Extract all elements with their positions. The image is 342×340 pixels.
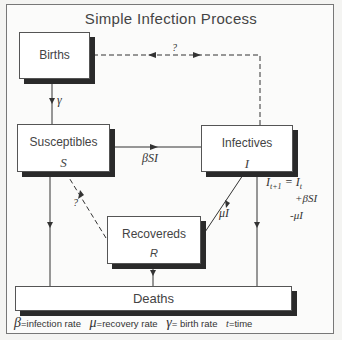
edge-label-birth-rate: γ <box>57 93 62 108</box>
node-recovereds: Recovereds R <box>107 216 201 264</box>
arrowhead <box>193 52 201 58</box>
legend-item-mu: μ=recovery rate <box>90 318 158 329</box>
node-label: Infectives <box>202 136 292 150</box>
edge-infectives-to-births-dashed <box>94 55 260 125</box>
arrowhead <box>148 52 156 58</box>
node-susceptibles: Susceptibles S <box>17 124 110 172</box>
node-label: Deaths <box>16 291 291 306</box>
legend: β=infection rate μ=recovery rate γ= birt… <box>14 315 258 331</box>
legend-text: = birth rate <box>172 318 218 329</box>
node-label: Births <box>20 48 89 62</box>
node-variable: R <box>108 247 200 259</box>
node-label: Susceptibles <box>18 135 109 149</box>
edge-label-unknown-return: ? <box>73 197 78 208</box>
edge-label-recovery: μI <box>219 206 229 221</box>
legend-item-beta: β=infection rate <box>14 318 81 329</box>
legend-item-gamma: γ= birth rate <box>166 318 217 329</box>
legend-text: =recovery rate <box>97 318 158 329</box>
edge-infectives-to-recovereds <box>205 175 243 232</box>
legend-symbol: μ <box>90 315 97 330</box>
legend-text: =time <box>229 318 253 329</box>
node-births: Births <box>19 32 90 79</box>
edge-label-unknown-births: ? <box>172 42 177 53</box>
equation-line-1: It+1 = It <box>266 175 302 191</box>
equation-line-2: +βSI <box>295 192 317 204</box>
equation-line-3: -μI <box>290 209 303 221</box>
legend-text: =infection rate <box>21 318 81 329</box>
arrowhead <box>254 222 260 228</box>
node-deaths: Deaths <box>15 286 292 311</box>
legend-item-time: t=time <box>226 318 252 329</box>
legend-symbol: β <box>14 315 21 330</box>
edge-label-infection: βSI <box>142 151 158 166</box>
arrowhead <box>47 222 53 228</box>
node-variable: S <box>18 155 109 171</box>
arrowhead <box>150 144 158 150</box>
node-variable: I <box>202 156 292 172</box>
node-label: Recovereds <box>108 227 200 241</box>
arrowhead <box>150 270 156 276</box>
node-infectives: Infectives I <box>201 125 293 172</box>
arrowhead <box>49 98 55 104</box>
